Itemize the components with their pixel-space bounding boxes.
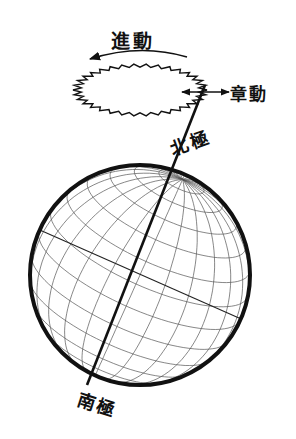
diagram-canvas bbox=[0, 0, 296, 439]
wavy-precession-ellipse bbox=[73, 64, 207, 116]
precession-label: 進動 bbox=[111, 26, 155, 53]
nutation-label: 章動 bbox=[230, 80, 268, 105]
equator-line bbox=[33, 227, 248, 322]
